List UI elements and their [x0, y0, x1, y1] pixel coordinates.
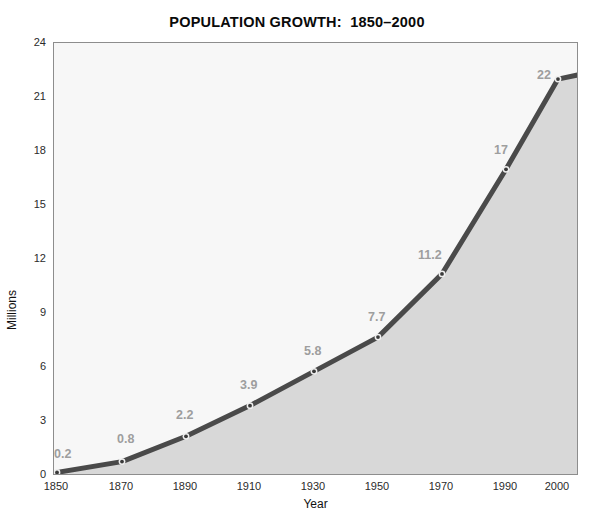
point-label-1890: 2.2: [176, 409, 193, 422]
area-fill: [57, 74, 578, 475]
x-tick-label-1950: 1950: [347, 480, 407, 492]
population-area-series: [54, 43, 578, 475]
data-point-1950: [376, 335, 380, 339]
data-point-1970: [440, 272, 444, 276]
y-axis-tick-labels: 24 21 18 15 12 9 6 3 0: [10, 0, 46, 527]
point-label-1910: 3.9: [240, 379, 257, 392]
point-label-1990: 17: [494, 144, 508, 157]
x-axis-title: Year: [53, 497, 578, 511]
x-tick-label-1970: 1970: [411, 480, 471, 492]
x-tick-label-1870: 1870: [91, 480, 151, 492]
point-label-1930: 5.8: [304, 345, 321, 358]
x-tick-label-1850: 1850: [26, 480, 86, 492]
chart-figure: POPULATION GROWTH: 1850–2000 24 21 18 15…: [0, 0, 594, 527]
data-point-2000: [556, 77, 560, 81]
y-tick-label-18: 18: [20, 145, 46, 156]
x-tick-label-1930: 1930: [283, 480, 343, 492]
chart-title: POPULATION GROWTH: 1850–2000: [0, 14, 594, 30]
y-tick-label-12: 12: [20, 253, 46, 264]
x-tick-label-1910: 1910: [219, 480, 279, 492]
y-tick-label-21: 21: [20, 91, 46, 102]
point-label-1850: 0.2: [54, 448, 71, 461]
y-tick-label-15: 15: [20, 199, 46, 210]
data-point-1930: [312, 369, 316, 373]
y-tick-label-24: 24: [20, 37, 46, 48]
point-label-1870: 0.8: [117, 433, 134, 446]
data-point-1890: [184, 434, 188, 438]
plot-area: [53, 42, 578, 475]
point-label-2000: 22: [537, 69, 551, 82]
y-tick-label-0: 0: [20, 469, 46, 480]
data-point-1990: [504, 167, 508, 171]
y-tick-label-9: 9: [20, 307, 46, 318]
data-point-1910: [248, 404, 252, 408]
x-tick-label-1890: 1890: [155, 480, 215, 492]
x-tick-label-1990: 1990: [475, 480, 535, 492]
data-point-1850: [55, 470, 59, 474]
point-label-1950: 7.7: [368, 311, 385, 324]
x-tick-label-2000: 2000: [527, 480, 587, 492]
y-tick-label-6: 6: [20, 361, 46, 372]
y-tick-label-3: 3: [20, 415, 46, 426]
data-point-1870: [120, 460, 124, 464]
y-axis-title: Millions: [5, 270, 19, 350]
point-label-1970: 11.2: [418, 249, 442, 262]
